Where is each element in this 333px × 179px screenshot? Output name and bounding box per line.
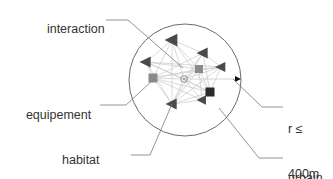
label-interaction: interaction: [33, 7, 105, 52]
label-interaction-text: interaction: [47, 22, 105, 36]
radius-arrow-group: [185, 76, 241, 82]
node-habitat-groupe: [197, 47, 208, 58]
node-equipement: [195, 65, 203, 73]
hub-node-center: [183, 78, 185, 80]
leader-line-equipement: [100, 79, 154, 105]
nodes-group: [140, 34, 226, 110]
node-equipement: [149, 74, 158, 83]
leader-line-habitat: [131, 104, 172, 155]
node-habitat-groupe: [197, 95, 206, 104]
diagram-canvas: interaction equipement habitat groupe r …: [0, 0, 333, 179]
radius-arrowhead: [235, 76, 241, 82]
label-equipement-text: equipement: [26, 108, 91, 122]
node-equipement: [206, 88, 215, 97]
label-urbain-line1: urbain: [288, 171, 328, 179]
label-radius-line1: r ≤: [288, 122, 319, 137]
node-habitat-groupe: [166, 98, 177, 109]
label-habitat-line1: habitat: [62, 153, 101, 168]
node-habitat-groupe: [140, 56, 151, 67]
label-urbain-system: urbain system: [288, 141, 328, 179]
label-habitat-groupe: habitat groupe: [62, 123, 101, 179]
